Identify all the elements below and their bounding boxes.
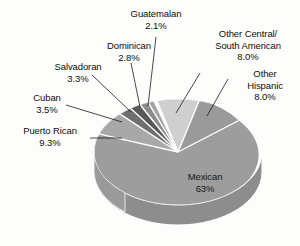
label-other-central-south-american: Other Central/ South American 8.0% bbox=[196, 28, 300, 63]
label-guatemalan-name: Guatemalan bbox=[131, 8, 182, 19]
label-mexican: Mexican 63% bbox=[165, 171, 245, 194]
label-other-central-south-american-pct: 8.0% bbox=[196, 51, 300, 63]
label-puerto-rican-pct: 9.3% bbox=[5, 137, 95, 149]
pie-chart: Guatemalan 2.1% Dominican 2.8% Salvadora… bbox=[0, 0, 300, 246]
label-dominican-name: Dominican bbox=[107, 40, 151, 51]
label-other-hispanic-line1: Other bbox=[253, 68, 276, 79]
label-other-central-south-american-line2: South American bbox=[196, 40, 300, 52]
label-cuban-pct: 3.5% bbox=[16, 104, 78, 116]
label-cuban: Cuban 3.5% bbox=[16, 92, 78, 115]
label-salvadoran-pct: 3.3% bbox=[36, 73, 120, 85]
label-other-hispanic: Other Hispanic 8.0% bbox=[232, 68, 298, 103]
label-dominican: Dominican 2.8% bbox=[88, 40, 170, 63]
label-other-central-south-american-line1: Other Central/ bbox=[219, 28, 277, 39]
label-guatemalan: Guatemalan 2.1% bbox=[112, 8, 200, 31]
leader-line-dominican bbox=[131, 63, 140, 107]
label-guatemalan-pct: 2.1% bbox=[112, 20, 200, 32]
label-mexican-name: Mexican bbox=[188, 171, 223, 182]
label-other-hispanic-line2: Hispanic bbox=[232, 80, 298, 92]
label-salvadoran-name: Salvadoran bbox=[54, 61, 101, 72]
label-puerto-rican: Puerto Rican 9.3% bbox=[5, 125, 95, 148]
label-salvadoran: Salvadoran 3.3% bbox=[36, 61, 120, 84]
label-mexican-pct: 63% bbox=[165, 183, 245, 195]
label-puerto-rican-name: Puerto Rican bbox=[23, 125, 77, 136]
label-cuban-name: Cuban bbox=[33, 92, 61, 103]
label-other-hispanic-pct: 8.0% bbox=[232, 91, 298, 103]
